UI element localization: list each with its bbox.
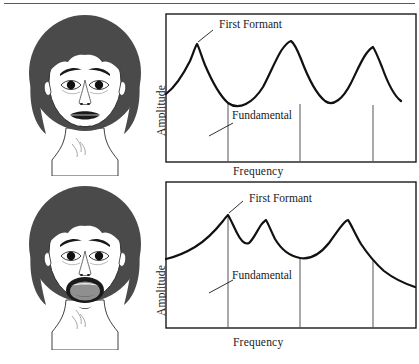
- first-formant-annotation-top: First Formant: [219, 18, 282, 30]
- x-axis-label-frequency-top: Frequency: [233, 165, 283, 177]
- chart-spectrum-closed-mouth: [165, 13, 417, 163]
- face-open-mouth: [10, 180, 160, 348]
- fundamental-annotation-top: Fundamental: [232, 109, 292, 121]
- top-divider-rule: [4, 3, 415, 4]
- face-closed-mouth: [10, 10, 160, 178]
- fundamental-annotation-bottom: Fundamental: [232, 269, 292, 281]
- panel-open-mouth: Amplitude First Formant Fundamental Freq…: [0, 178, 419, 364]
- first-formant-annotation-bottom: First Formant: [249, 192, 312, 204]
- figure-root: Amplitude First Formant Fundamental: [0, 0, 419, 364]
- panel-closed-mouth: Amplitude First Formant Fundamental: [0, 6, 419, 178]
- x-axis-label-frequency-bottom: Frequency: [233, 336, 283, 348]
